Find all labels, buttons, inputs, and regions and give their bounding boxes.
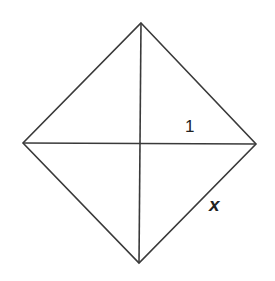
half-diagonal-label: 1 [185, 117, 194, 137]
vertical-diagonal [139, 23, 141, 263]
side-label: x [209, 194, 220, 216]
rhombus-diagram [0, 0, 275, 281]
